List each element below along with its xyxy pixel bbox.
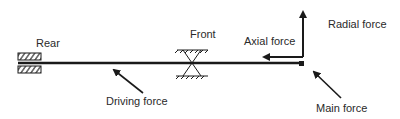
rear-label: Rear: [36, 37, 60, 49]
radial-force-label: Radial force: [328, 18, 387, 30]
axial-force-label: Axial force: [244, 35, 295, 47]
main-force-arrow-icon: [314, 72, 341, 98]
main-force-label: Main force: [316, 102, 367, 114]
driving-force-arrow-icon: [114, 70, 143, 93]
driving-force-label: Driving force: [106, 95, 168, 107]
shaft-force-diagram: Rear Front Axial force Radial force Driv…: [0, 0, 400, 119]
front-label: Front: [190, 28, 216, 40]
force-point-marker: [299, 61, 304, 66]
front-bearing-icon: [175, 50, 208, 79]
